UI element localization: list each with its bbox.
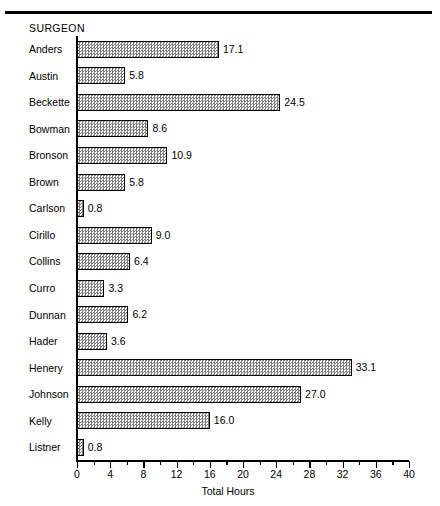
category-label: Cirillo [29, 222, 55, 249]
x-tick-label: 40 [394, 468, 424, 480]
bar [77, 439, 84, 456]
x-axis-title: Total Hours [0, 485, 440, 497]
bar-row: Cirillo9.0 [0, 222, 440, 249]
x-tick-major [210, 461, 211, 468]
category-label: Hader [29, 328, 58, 355]
bar-value-label: 5.8 [129, 174, 144, 191]
x-tick-minor [359, 461, 360, 465]
bar-value-label: 27.0 [305, 386, 325, 403]
bar-value-label: 9.0 [156, 227, 171, 244]
x-tick-minor [293, 461, 294, 465]
bar-row: Brown5.8 [0, 169, 440, 196]
x-tick-major [110, 461, 111, 468]
x-tick-major [77, 461, 78, 468]
x-tick-label: 4 [95, 468, 125, 480]
x-tick-major [276, 461, 277, 468]
x-tick-minor [94, 461, 95, 465]
x-tick-label: 28 [294, 468, 324, 480]
category-label: Beckette [29, 89, 70, 116]
bar-value-label: 17.1 [223, 41, 243, 58]
bar-row: Bronson10.9 [0, 142, 440, 169]
top-rule-divider [5, 11, 432, 14]
bar-row: Dunnan6.2 [0, 302, 440, 329]
x-tick-major [376, 461, 377, 468]
category-label: Bronson [29, 142, 68, 169]
bar [77, 41, 219, 58]
category-label: Bowman [29, 116, 70, 143]
category-label: Austin [29, 63, 58, 90]
bar-value-label: 10.9 [171, 147, 191, 164]
bar-row: Collins6.4 [0, 248, 440, 275]
bar-row: Johnson27.0 [0, 381, 440, 408]
bar [77, 359, 352, 376]
bar-value-label: 8.6 [152, 120, 167, 137]
category-label: Brown [29, 169, 59, 196]
category-label: Listner [29, 434, 61, 461]
x-tick-major [143, 461, 144, 468]
bar-value-label: 0.8 [88, 439, 103, 456]
x-tick-label: 12 [162, 468, 192, 480]
bar-row: Anders17.1 [0, 36, 440, 63]
bar-row: Bowman8.6 [0, 116, 440, 143]
category-label: Dunnan [29, 302, 66, 329]
category-label: Johnson [29, 381, 69, 408]
category-label: Kelly [29, 408, 52, 435]
bar [77, 200, 84, 217]
bar [77, 147, 167, 164]
x-tick-label: 32 [328, 468, 358, 480]
x-tick-minor [160, 461, 161, 465]
category-label: Henery [29, 355, 63, 382]
bar-value-label: 16.0 [214, 412, 234, 429]
x-tick-label: 24 [261, 468, 291, 480]
bar-row: Beckette24.5 [0, 89, 440, 116]
category-label: Collins [29, 248, 61, 275]
bar [77, 280, 104, 297]
bar [77, 120, 148, 137]
bar-value-label: 6.2 [132, 306, 147, 323]
bar [77, 174, 125, 191]
bar-value-label: 5.8 [129, 67, 144, 84]
category-label: Carlson [29, 195, 65, 222]
bar-row: Austin5.8 [0, 63, 440, 90]
bar-row: Henery33.1 [0, 355, 440, 382]
x-tick-major [177, 461, 178, 468]
x-tick-major [343, 461, 344, 468]
bar-row: Kelly16.0 [0, 408, 440, 435]
bar [77, 253, 130, 270]
bar [77, 94, 280, 111]
bar-row: Curro3.3 [0, 275, 440, 302]
category-axis-heading: SURGEON [29, 22, 85, 34]
bar [77, 227, 152, 244]
x-tick-label: 8 [128, 468, 158, 480]
bar [77, 67, 125, 84]
x-tick-minor [392, 461, 393, 465]
x-tick-label: 20 [228, 468, 258, 480]
x-tick-minor [260, 461, 261, 465]
x-tick-label: 36 [361, 468, 391, 480]
x-tick-label: 0 [62, 468, 92, 480]
category-label: Curro [29, 275, 55, 302]
bar-row: Carlson0.8 [0, 195, 440, 222]
bar [77, 412, 210, 429]
x-tick-major [309, 461, 310, 468]
bar-value-label: 3.6 [111, 333, 126, 350]
bar-value-label: 3.3 [108, 280, 123, 297]
x-tick-label: 16 [195, 468, 225, 480]
x-tick-minor [226, 461, 227, 465]
x-tick-minor [326, 461, 327, 465]
bar-value-label: 24.5 [284, 94, 304, 111]
bar-value-label: 33.1 [356, 359, 376, 376]
x-axis-title-text: Total Hours [201, 485, 254, 497]
x-tick-minor [193, 461, 194, 465]
bar-value-label: 0.8 [88, 200, 103, 217]
x-tick-major [243, 461, 244, 468]
category-label: Anders [29, 36, 62, 63]
bar-value-label: 6.4 [134, 253, 149, 270]
bar [77, 386, 301, 403]
bar [77, 306, 128, 323]
bar-row: Listner0.8 [0, 434, 440, 461]
bar-row: Hader3.6 [0, 328, 440, 355]
bar [77, 333, 107, 350]
bar-chart: SURGEON Anders17.1Austin5.8Beckette24.5B… [0, 0, 440, 506]
x-tick-minor [127, 461, 128, 465]
